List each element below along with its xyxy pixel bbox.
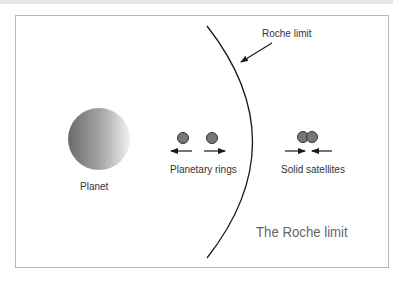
roche-pointer-arrow: [241, 43, 272, 62]
planet-label: Planet: [80, 181, 108, 192]
satellite-right: [307, 132, 318, 143]
roche-limit-label: Roche limit: [262, 28, 311, 39]
diagram-title: The Roche limit: [256, 223, 348, 240]
planet-circle: [68, 108, 130, 170]
solid-satellites-label: Solid satellites: [281, 164, 345, 175]
ring-particle-right: [207, 133, 218, 144]
planetary-rings-label: Planetary rings: [170, 164, 237, 175]
ring-particle-left: [178, 133, 189, 144]
